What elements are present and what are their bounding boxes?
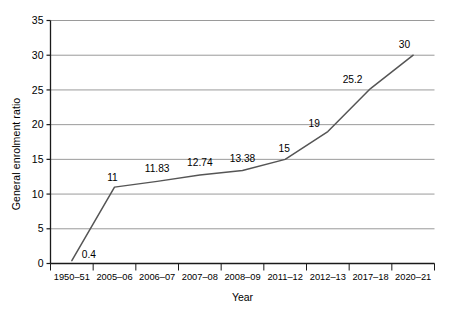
chart-container: General enrolment ratio 05101520253035 0…	[0, 0, 449, 320]
data-point-label: 30	[399, 39, 411, 50]
x-axis-tick-label: 2007–08	[182, 272, 218, 282]
data-point-label: 11	[107, 172, 118, 183]
data-point-label: 12.74	[187, 157, 213, 168]
x-axis-tick-label: 2006–07	[139, 272, 175, 282]
x-axis-tick-label: 1950–51	[54, 272, 90, 282]
x-axis-tick-label: 2008–09	[224, 272, 260, 282]
y-axis-tick-label: 10	[32, 188, 44, 200]
x-axis-tick-label: 2011–12	[267, 272, 303, 282]
x-axis-tick-label: 2020–21	[395, 272, 431, 282]
y-axis-tick-label: 25	[32, 84, 44, 96]
data-point-label: 19	[308, 118, 320, 129]
y-axis-tick-label: 20	[32, 118, 44, 130]
y-axis-tick-label: 0	[38, 257, 44, 269]
x-axis-title: Year	[50, 291, 435, 303]
y-axis-tick-label: 15	[32, 153, 44, 165]
y-axis-tick-label: 35	[32, 14, 44, 26]
axis-lines-group	[51, 21, 435, 264]
data-point-label: 15	[278, 143, 290, 154]
data-point-label: 25.2	[343, 74, 363, 85]
gridlines-group	[51, 21, 435, 264]
x-axis-tick-label: 2017–18	[352, 272, 388, 282]
data-point-label: 13.38	[230, 153, 256, 164]
y-axis-tick-label: 5	[38, 222, 44, 234]
data-point-label: 11.83	[145, 163, 170, 174]
x-axis-tick-label: 2005–06	[96, 272, 132, 282]
x-axis-tick-label: 2012–13	[310, 272, 346, 282]
x-axis-tick-labels-group: 1950–512005–062006–072007–082008–092011–…	[54, 272, 432, 282]
data-point-labels-group: 0.41111.8312.7413.38151925.230	[82, 39, 411, 260]
line-chart-plot: 05101520253035 0.41111.8312.7413.3815192…	[0, 0, 449, 320]
y-axis-tick-label: 30	[32, 49, 44, 61]
x-axis-ticks-group	[51, 264, 435, 271]
data-point-label: 0.4	[82, 249, 96, 260]
y-axis-ticks-group: 05101520253035	[32, 14, 51, 269]
